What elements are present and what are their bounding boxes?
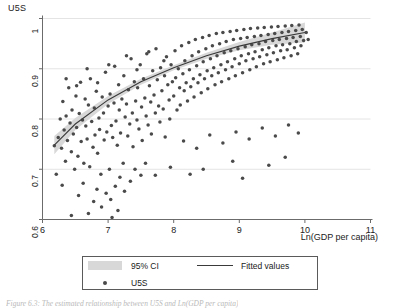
x-tick-label: 7 (96, 225, 120, 235)
x-tick-label: 9 (227, 225, 251, 235)
x-tick-label: 10 (293, 225, 317, 235)
figure-container: U5S Ln(GDP per capita) 95% CI Fitted val… (0, 0, 400, 308)
y-tick-label: 1 (30, 18, 40, 44)
legend-label-ci: 95% CI (127, 261, 159, 271)
fitted-line-swatch (193, 265, 237, 266)
x-tick-label: 6 (31, 225, 55, 235)
chart-legend: 95% CI Fitted values U5S (82, 256, 318, 290)
legend-entry-fitted: Fitted values (193, 257, 289, 274)
point-marker-swatch (83, 281, 127, 285)
legend-label-points: U5S (127, 278, 148, 288)
ci-band-swatch (83, 261, 127, 270)
figure-caption: Figure 6.3: The estimated relationship b… (6, 299, 238, 308)
y-tick-label: 0.8 (30, 118, 40, 144)
y-tick-label: 0.9 (30, 68, 40, 94)
x-tick-label: 11 (359, 225, 383, 235)
legend-entry-points: U5S (83, 274, 148, 291)
legend-label-fitted: Fitted values (237, 261, 289, 271)
legend-entry-ci: 95% CI (83, 257, 159, 274)
x-tick-label: 8 (162, 225, 186, 235)
y-tick-label: 0.7 (30, 168, 40, 194)
